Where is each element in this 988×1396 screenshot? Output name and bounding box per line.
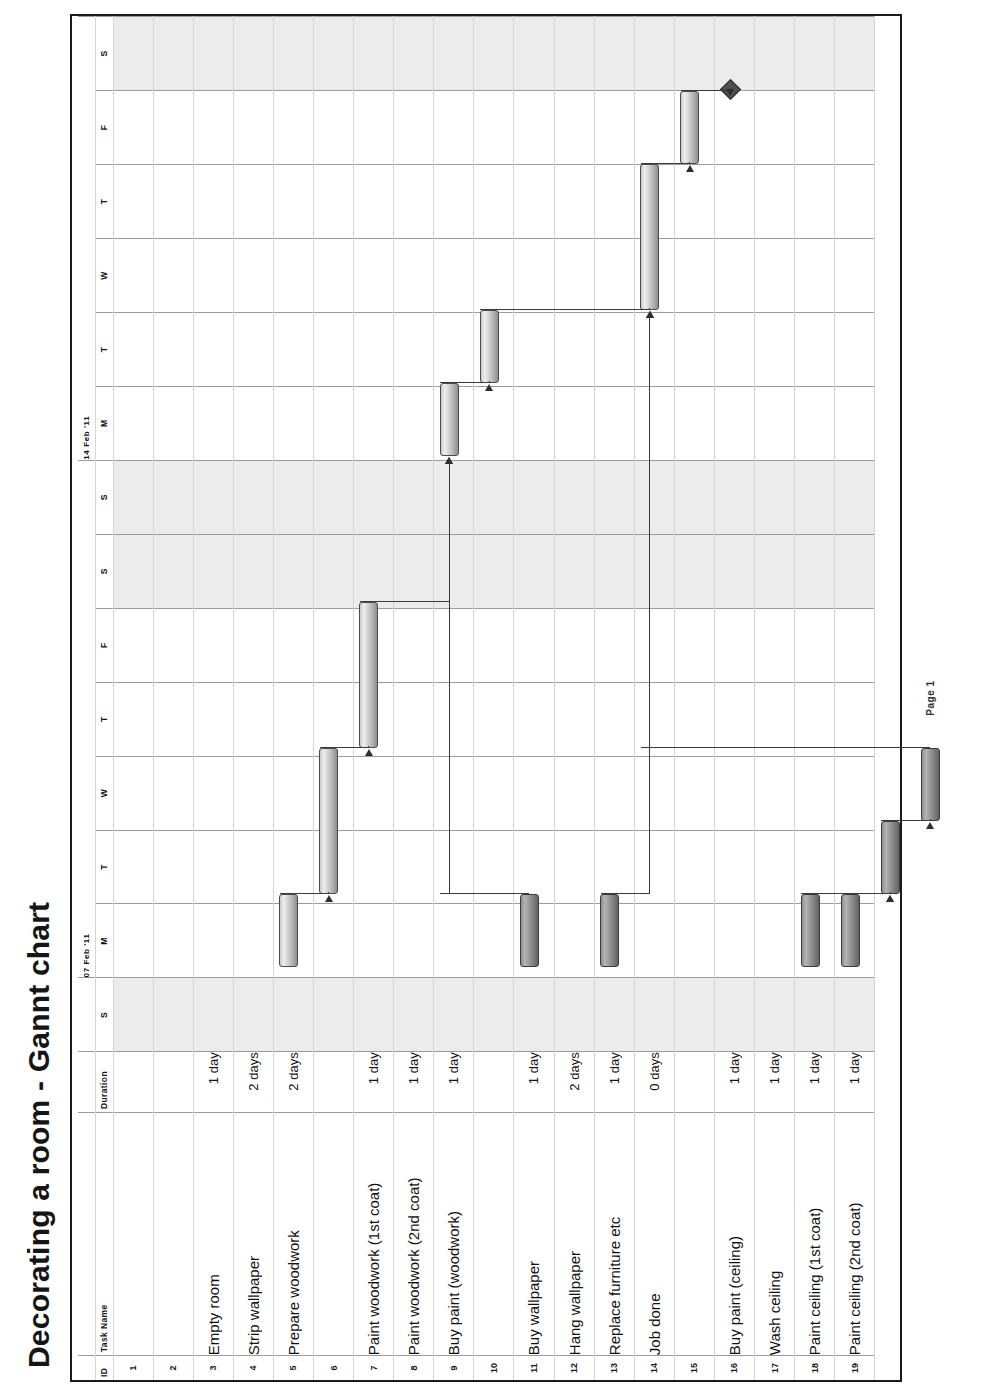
row-task-name[interactable]: Hang wallpaper bbox=[554, 1113, 594, 1356]
timeline-cell bbox=[795, 460, 835, 534]
row-id: 14 bbox=[634, 1356, 674, 1380]
gantt-bar[interactable] bbox=[921, 748, 940, 821]
timescale-week-label: 14 Feb '11 bbox=[78, 17, 95, 461]
row-task-name[interactable]: Wash ceiling bbox=[755, 1113, 795, 1356]
table-row[interactable]: 12Hang wallpaper2 days bbox=[554, 17, 594, 1381]
table-row[interactable]: 11Buy wallpaper1 day bbox=[514, 17, 554, 1381]
row-duration[interactable]: 0 days bbox=[634, 1052, 674, 1113]
timeline-cell bbox=[795, 312, 835, 386]
timeline-cell bbox=[153, 756, 193, 830]
table-row[interactable]: 14Job done0 days bbox=[634, 17, 674, 1381]
row-task-name[interactable]: Job done bbox=[634, 1113, 674, 1356]
timeline-cell bbox=[193, 312, 233, 386]
timeline-cell bbox=[273, 460, 313, 534]
timeline-cell bbox=[394, 91, 434, 165]
timeline-cell bbox=[474, 165, 514, 239]
timeline-cell bbox=[394, 534, 434, 608]
table-row[interactable]: 4Strip wallpaper2 days bbox=[233, 17, 273, 1381]
row-duration[interactable]: 1 day bbox=[354, 1052, 394, 1113]
table-row[interactable]: 13Replace furniture etc1 day bbox=[594, 17, 634, 1381]
row-duration[interactable]: 2 days bbox=[273, 1052, 313, 1113]
row-task-name[interactable]: Paint woodwork (1st coat) bbox=[354, 1113, 394, 1356]
row-task-name[interactable]: Paint woodwork (2nd coat) bbox=[394, 1113, 434, 1356]
timeline-cell bbox=[233, 756, 273, 830]
timeline-cell bbox=[634, 238, 674, 312]
row-duration[interactable]: 1 day bbox=[795, 1052, 835, 1113]
row-task-name[interactable]: Replace furniture etc bbox=[594, 1113, 634, 1356]
row-duration[interactable]: 2 days bbox=[554, 1052, 594, 1113]
table-row[interactable]: 9Buy paint (woodwork)1 day bbox=[434, 17, 474, 1381]
timeline-cell bbox=[835, 460, 875, 534]
row-duration[interactable]: 1 day bbox=[394, 1052, 434, 1113]
timeline-cell bbox=[554, 682, 594, 756]
table-row[interactable]: 7Paint woodwork (1st coat)1 day bbox=[354, 17, 394, 1381]
timeline-cell bbox=[193, 17, 233, 91]
row-task-name[interactable]: Paint ceiling (1st coat) bbox=[795, 1113, 835, 1356]
table-row[interactable]: 5Prepare woodwork2 days bbox=[273, 17, 313, 1381]
table-row[interactable]: 1 bbox=[113, 17, 153, 1381]
row-duration[interactable]: 1 day bbox=[594, 1052, 634, 1113]
timeline-cell bbox=[434, 238, 474, 312]
timeline-cell bbox=[554, 830, 594, 904]
table-row[interactable]: 10 bbox=[474, 17, 514, 1381]
timescale-day-6: S bbox=[95, 534, 113, 608]
timeline-cell bbox=[714, 756, 754, 830]
row-duration[interactable] bbox=[313, 1052, 353, 1113]
row-task-name[interactable]: Buy paint (woodwork) bbox=[434, 1113, 474, 1356]
timeline-cell bbox=[674, 682, 714, 756]
timeline-cell bbox=[313, 238, 353, 312]
row-duration[interactable]: 1 day bbox=[714, 1052, 754, 1113]
row-duration[interactable]: 1 day bbox=[835, 1052, 875, 1113]
table-row[interactable]: 18Paint ceiling (1st coat)1 day bbox=[795, 17, 835, 1381]
timeline-cell bbox=[394, 460, 434, 534]
table-row[interactable]: 16Buy paint (ceiling)1 day bbox=[714, 17, 754, 1381]
row-id: 4 bbox=[233, 1356, 273, 1380]
row-task-name[interactable]: Empty room bbox=[193, 1113, 233, 1356]
table-row[interactable]: 19Paint ceiling (2nd coat)1 day bbox=[835, 17, 875, 1381]
row-duration[interactable]: 1 day bbox=[755, 1052, 795, 1113]
table-row[interactable]: 3Empty room1 day bbox=[193, 17, 233, 1381]
gantt-bar[interactable] bbox=[881, 821, 900, 894]
row-id: 16 bbox=[714, 1356, 754, 1380]
timeline-cell bbox=[714, 978, 754, 1052]
row-task-name[interactable]: Paint ceiling (2nd coat) bbox=[835, 1113, 875, 1356]
timeline-cell bbox=[755, 17, 795, 91]
timeline-cell bbox=[755, 91, 795, 165]
row-task-name[interactable] bbox=[674, 1113, 714, 1356]
row-duration[interactable] bbox=[113, 1052, 153, 1113]
row-task-name[interactable] bbox=[474, 1113, 514, 1356]
timeline-cell bbox=[795, 17, 835, 91]
row-task-name[interactable] bbox=[313, 1113, 353, 1356]
timeline-cell bbox=[755, 978, 795, 1052]
timeline-cell bbox=[354, 756, 394, 830]
row-duration[interactable] bbox=[153, 1052, 193, 1113]
row-task-name[interactable]: Prepare woodwork bbox=[273, 1113, 313, 1356]
dependency-link-h bbox=[930, 819, 931, 821]
table-row[interactable]: 15 bbox=[674, 17, 714, 1381]
timeline-cell bbox=[514, 238, 554, 312]
row-task-name[interactable]: Buy paint (ceiling) bbox=[714, 1113, 754, 1356]
row-duration[interactable]: 2 days bbox=[233, 1052, 273, 1113]
timeline-cell bbox=[714, 830, 754, 904]
timeline-cell bbox=[313, 756, 353, 830]
row-task-name[interactable]: Buy wallpaper bbox=[514, 1113, 554, 1356]
row-duration[interactable]: 1 day bbox=[193, 1052, 233, 1113]
row-duration[interactable] bbox=[474, 1052, 514, 1113]
timeline-cell bbox=[273, 17, 313, 91]
row-duration[interactable] bbox=[674, 1052, 714, 1113]
timeline-cell bbox=[594, 830, 634, 904]
table-row[interactable]: 2 bbox=[153, 17, 193, 1381]
row-task-name[interactable]: Strip wallpaper bbox=[233, 1113, 273, 1356]
timeline-cell bbox=[273, 682, 313, 756]
table-row[interactable]: 17Wash ceiling1 day bbox=[755, 17, 795, 1381]
table-row[interactable]: 6 bbox=[313, 17, 353, 1381]
row-duration[interactable]: 1 day bbox=[434, 1052, 474, 1113]
timeline-cell bbox=[634, 460, 674, 534]
timeline-cell bbox=[795, 165, 835, 239]
table-row[interactable]: 8Paint woodwork (2nd coat)1 day bbox=[394, 17, 434, 1381]
timeline-cell bbox=[714, 534, 754, 608]
timeline-cell bbox=[354, 312, 394, 386]
row-task-name[interactable] bbox=[113, 1113, 153, 1356]
row-task-name[interactable] bbox=[153, 1113, 193, 1356]
row-duration[interactable]: 1 day bbox=[514, 1052, 554, 1113]
